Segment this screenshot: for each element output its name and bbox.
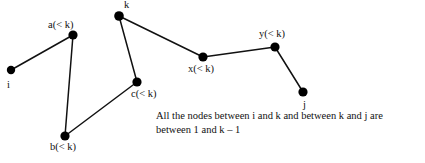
caption-line-1: All the nodes between i and k and betwee… [156,109,418,123]
graph-edge-i-a [11,35,73,70]
graph-node-x [198,52,207,61]
graph-node-i [7,66,15,74]
graph-edge-k-x [119,16,203,57]
graph-node-b [60,131,69,140]
node-label-c: c(< k) [131,89,156,100]
graph-node-c [132,77,141,86]
node-label-b: b(< k) [50,142,76,153]
figure-caption: All the nodes between i and k and betwee… [156,109,418,137]
node-label-i: i [7,80,10,91]
graph-node-a [68,30,77,39]
node-label-x: x(< k) [188,64,214,75]
graph-edge-a-b [65,35,73,136]
graph-node-k [114,11,124,21]
node-label-y: y(< k) [259,29,285,40]
graph-edge-c-k [119,16,137,82]
graph-node-y [270,42,279,51]
caption-line-2: between 1 and k – 1 [156,123,418,137]
node-label-k: k [124,0,129,11]
graph-edge-b-c [65,82,137,136]
node-label-a: a(< k) [48,20,73,31]
graph-edge-y-j [275,47,303,92]
figure-canvas: ia(< k)b(< k)c(< k)kx(< k)y(< k)j All th… [0,0,425,163]
graph-node-j [298,87,307,96]
graph-edge-x-y [203,47,275,57]
